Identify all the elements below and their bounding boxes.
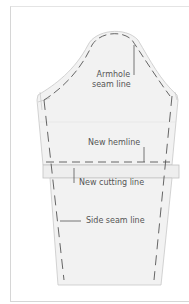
side-seam-line-label: Side seam line: [86, 216, 145, 226]
new-cutting-line-label: New cutting line: [79, 178, 144, 188]
armhole-label: Armhole seam line: [92, 70, 131, 90]
sleeve-pattern-diagram: [0, 0, 189, 304]
hem-extension-band: [43, 165, 179, 178]
lower-sleeve-piece: [50, 178, 172, 285]
new-hemline-label: New hemline: [88, 138, 140, 148]
